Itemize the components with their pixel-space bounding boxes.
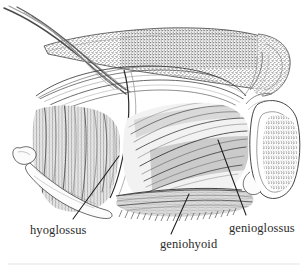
anatomical-figure: hyoglossus geniohyoid genioglossus (0, 0, 308, 272)
label-genioglossus: genioglossus (229, 221, 295, 235)
label-hyoglossus: hyoglossus (30, 223, 87, 237)
label-geniohyoid: geniohyoid (160, 237, 218, 251)
anatomy-illustration: hyoglossus geniohyoid genioglossus (0, 0, 308, 272)
